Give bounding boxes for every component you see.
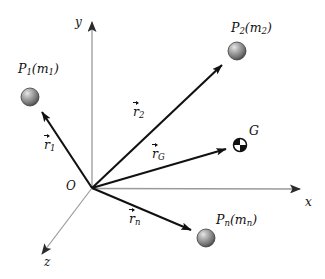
- particle-label-P1-close: ): [54, 61, 59, 76]
- particle-label-P1: P1(m1): [18, 63, 59, 77]
- vector-label-rG-r: r: [152, 146, 158, 161]
- origin-label-O: O: [66, 180, 76, 192]
- vector-label-r1-arrow: r: [44, 139, 50, 152]
- axis-z: [42, 188, 92, 254]
- particle-label-P2-m: m: [250, 20, 262, 35]
- vector-label-rG: rG: [152, 148, 165, 162]
- particle-label-Pn-m: m: [235, 212, 247, 227]
- vector-label-r2-sub: 2: [139, 110, 144, 120]
- vector-label-r1-r: r: [44, 137, 50, 152]
- particle-sphere-P1: [21, 88, 39, 106]
- vector-label-r1: r1: [44, 139, 55, 153]
- particle-sphere-P2: [228, 42, 246, 60]
- axis-label-y: y: [75, 16, 82, 28]
- vector-label-r2-r: r: [133, 104, 139, 119]
- particle-label-P1-m: m: [37, 61, 49, 76]
- particle-label-P2: P2(m2): [231, 22, 272, 36]
- vector-label-r2: r2: [133, 106, 144, 120]
- vector-label-rn-arrow: r: [129, 213, 135, 226]
- axis-x: [92, 189, 300, 190]
- particle-label-Pn: Pn(mn): [216, 214, 257, 228]
- vector-label-rn-sub: n: [135, 217, 140, 227]
- center-of-mass-symbol-G: [234, 139, 247, 152]
- vector-label-rn: rn: [129, 213, 140, 227]
- axis-label-z: z: [44, 256, 50, 268]
- vector-label-r1-sub: 1: [50, 143, 55, 153]
- particle-sphere-Pn: [197, 229, 215, 247]
- vector-label-rG-sub: G: [158, 152, 165, 162]
- vector-rn: [92, 188, 191, 230]
- particle-label-Pn-close: ): [252, 212, 257, 227]
- physics-diagram-position-vectors: y x z O P1(m1) P2(m2) Pn(mn) G r1 r2 rG …: [0, 0, 325, 279]
- vector-label-rn-r: r: [129, 211, 135, 226]
- center-of-mass-label-G: G: [249, 125, 259, 138]
- axis-label-x: x: [305, 196, 312, 208]
- vector-label-rG-arrow: r: [152, 148, 158, 161]
- particle-label-P2-close: ): [267, 20, 272, 35]
- vector-label-r2-arrow: r: [133, 106, 139, 119]
